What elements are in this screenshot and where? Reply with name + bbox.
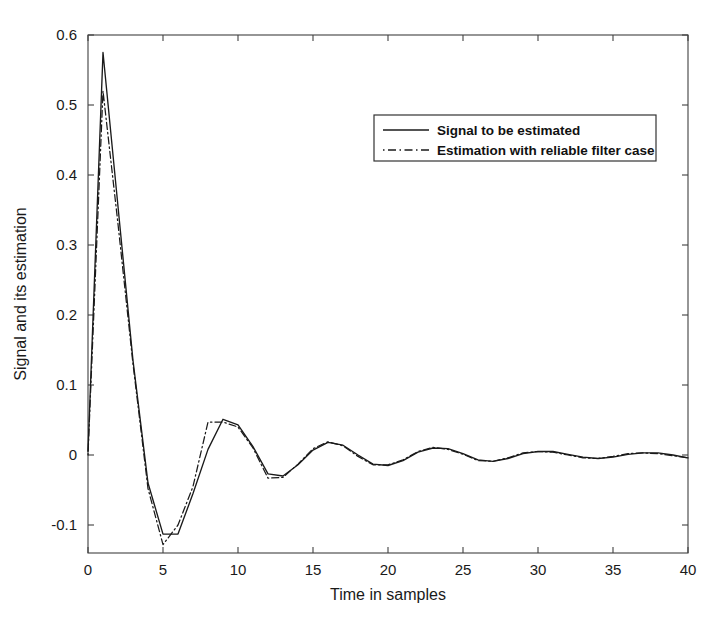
axis-group: 0510152025303540-0.100.10.20.30.40.50.6 bbox=[51, 26, 696, 578]
y-tick-label: -0.1 bbox=[51, 516, 77, 533]
x-axis-title: Time in samples bbox=[330, 586, 446, 603]
y-tick-label: 0.2 bbox=[56, 306, 77, 323]
legend-label-1: Signal to be estimated bbox=[437, 123, 580, 138]
x-tick-label: 40 bbox=[680, 561, 697, 578]
x-tick-label: 10 bbox=[230, 561, 247, 578]
y-tick-label: 0.1 bbox=[56, 376, 77, 393]
chart-plot: 0510152025303540-0.100.10.20.30.40.50.6 … bbox=[0, 0, 726, 621]
y-tick-label: 0.6 bbox=[56, 26, 77, 43]
x-tick-label: 5 bbox=[159, 561, 167, 578]
x-tick-label: 35 bbox=[605, 561, 622, 578]
plot-frame bbox=[88, 35, 688, 553]
x-tick-label: 15 bbox=[305, 561, 322, 578]
y-tick-label: 0.3 bbox=[56, 236, 77, 253]
y-tick-label: 0.4 bbox=[56, 166, 77, 183]
axis-label-group: Time in samplesSignal and its estimation bbox=[12, 207, 446, 603]
chart-legend: Signal to be estimatedEstimation with re… bbox=[374, 115, 656, 161]
y-tick-label: 0 bbox=[69, 446, 77, 463]
x-tick-label: 0 bbox=[84, 561, 92, 578]
figure-canvas: 0510152025303540-0.100.10.20.30.40.50.6 … bbox=[0, 0, 726, 621]
y-axis-title: Signal and its estimation bbox=[12, 207, 29, 380]
x-tick-label: 30 bbox=[530, 561, 547, 578]
x-tick-label: 25 bbox=[455, 561, 472, 578]
y-tick-label: 0.5 bbox=[56, 96, 77, 113]
x-tick-label: 20 bbox=[380, 561, 397, 578]
legend-label-2: Estimation with reliable filter case bbox=[437, 143, 655, 158]
